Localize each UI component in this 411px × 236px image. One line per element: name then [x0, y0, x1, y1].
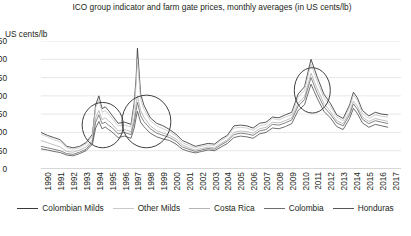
x-axis-tick: 1996 [121, 172, 131, 190]
legend-item[interactable]: Costa Rica [189, 203, 255, 213]
chart-canvas [41, 41, 401, 169]
y-axis-tick: 250 [0, 73, 7, 83]
x-axis-tick: 1997 [133, 172, 143, 190]
y-axis-tick: 350 [0, 36, 7, 46]
highlight-ellipse [122, 95, 171, 148]
x-axis-tick: 2005 [236, 172, 246, 190]
x-axis-tick: 2004 [223, 172, 233, 190]
x-axis-tick: 2000 [172, 172, 182, 190]
x-axis-tick: 2015 [365, 172, 375, 190]
legend-label: Colombia [289, 203, 324, 213]
x-axis-tick: 2001 [185, 172, 195, 190]
y-axis-tick: 150 [0, 109, 7, 119]
x-axis-tick: 2002 [198, 172, 208, 190]
x-axis-tick: 1998 [146, 172, 156, 190]
x-axis-tick: 2016 [378, 172, 388, 190]
plot-area [41, 41, 401, 169]
legend-label: Colombian Milds [42, 203, 103, 213]
x-axis-tick: 1993 [82, 172, 92, 190]
x-axis-tick: 2007 [262, 172, 272, 190]
legend-swatch [264, 208, 285, 209]
legend-swatch [113, 208, 134, 209]
legend-item[interactable]: Colombian Milds [17, 203, 103, 213]
x-axis-tick: 2017 [391, 172, 401, 190]
chart-legend: Colombian MildsOther MildsCosta RicaColo… [0, 203, 411, 236]
x-axis-tick: 2013 [339, 172, 349, 190]
legend-label: Honduras [358, 203, 394, 213]
chart-title: ICO group indicator and farm gate prices… [62, 2, 362, 13]
x-axis-tick: 2003 [211, 172, 221, 190]
x-axis-tick: 2010 [301, 172, 311, 190]
x-axis-tick: 1994 [95, 172, 105, 190]
x-axis-tick: 2006 [249, 172, 259, 190]
y-axis-label: US cents/lb [5, 29, 47, 39]
x-axis-tick: 2012 [326, 172, 336, 190]
legend-item[interactable]: Honduras [333, 203, 394, 213]
x-axis-tick: 2008 [275, 172, 285, 190]
x-axis-tick: 1992 [69, 172, 79, 190]
y-axis-tick: 0 [0, 164, 7, 174]
legend-label: Costa Rica [214, 203, 255, 213]
legend-swatch [333, 208, 354, 209]
legend-item[interactable]: Colombia [264, 203, 324, 213]
legend-swatch [189, 208, 210, 209]
x-axis-tick: 2011 [313, 172, 323, 190]
x-axis-tick: 1990 [43, 172, 53, 190]
x-axis-tick: 2009 [288, 172, 298, 190]
chart-figure: ICO group indicator and farm gate prices… [0, 0, 411, 236]
x-axis-tick: 2014 [352, 172, 362, 190]
x-axis-tick: 1995 [108, 172, 118, 190]
x-axis-tick: 1999 [159, 172, 169, 190]
legend-swatch [17, 208, 38, 209]
legend-label: Other Milds [138, 203, 180, 213]
x-axis-tick: 1991 [56, 172, 66, 190]
y-axis-tick: 100 [0, 127, 7, 137]
y-axis-tick: 300 [0, 54, 7, 64]
y-axis-tick: 50 [0, 146, 7, 156]
legend-item[interactable]: Other Milds [113, 203, 180, 213]
highlight-ellipse [294, 68, 330, 113]
y-axis-tick: 200 [0, 91, 7, 101]
